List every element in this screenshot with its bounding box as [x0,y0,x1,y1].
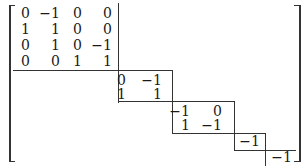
cell-1-1: 0 [8,5,30,22]
cell-3-1: 0 [8,37,30,54]
cell-8-7: 1 [168,117,190,134]
cell-2-1: 1 [8,21,30,38]
cell-2-4: 0 [90,21,112,38]
cell-3-4: −1 [90,37,112,54]
cell-4-4: 1 [90,53,112,70]
cell-1-4: 0 [90,5,112,22]
cell-4-1: 0 [8,53,30,70]
cell-3-3: 0 [60,37,82,54]
cell-10-10: −1 [270,149,292,166]
cell-2-3: 0 [60,21,82,38]
cell-1-3: 0 [60,5,82,22]
cell-4-3: 1 [60,53,82,70]
cell-8-8: −1 [200,117,222,134]
cell-6-6: 1 [140,86,162,103]
cell-9-9: −1 [238,133,260,150]
cell-6-5: 1 [104,86,126,103]
cell-3-2: 1 [38,37,60,54]
cell-1-2: −1 [38,5,60,22]
cell-2-2: 1 [38,21,60,38]
cell-4-2: 0 [38,53,60,70]
